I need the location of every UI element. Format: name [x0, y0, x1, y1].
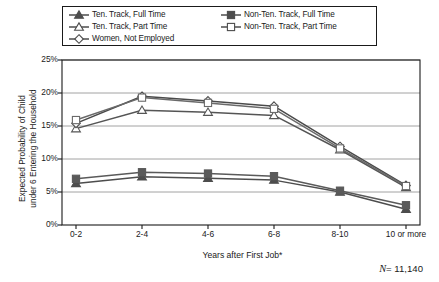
data-point-marker [270, 105, 277, 112]
plot-frame [62, 60, 420, 225]
legend-entry: Ten. Track, Full Time [68, 9, 220, 21]
series-2 [72, 106, 411, 191]
x-tick-label: 2-4 [136, 229, 148, 239]
filled-triangle-icon [68, 9, 90, 21]
x-tick-label: 10 or more [386, 229, 427, 239]
data-point-marker [204, 170, 211, 177]
chart-figure: Ten. Track, Full TimeNon-Ten. Track, Ful… [0, 0, 439, 282]
y-tick-label: 0% [22, 219, 58, 229]
y-tick-label: 10% [22, 153, 58, 163]
chart-legend: Ten. Track, Full TimeNon-Ten. Track, Ful… [62, 6, 377, 46]
data-point-marker [204, 99, 211, 106]
legend-entry: Ten. Track, Part Time [68, 21, 220, 33]
legend-label: Ten. Track, Part Time [92, 21, 167, 33]
y-tick-label: 5% [22, 186, 58, 196]
data-point-marker [72, 175, 79, 182]
legend-label: Ten. Track, Full Time [92, 9, 165, 21]
data-point-marker [402, 202, 409, 209]
data-point-marker [72, 116, 79, 123]
legend-entry-list: Ten. Track, Full TimeNon-Ten. Track, Ful… [68, 9, 373, 45]
series-1 [72, 173, 411, 213]
x-tick-label: 0-2 [70, 229, 82, 239]
series-line [76, 110, 406, 187]
open-triangle-icon [68, 21, 90, 33]
data-point-marker [336, 187, 343, 194]
data-point-marker [270, 173, 277, 180]
series-line [76, 172, 406, 205]
open-diamond-icon [68, 33, 90, 45]
x-tick-label: 6-8 [268, 229, 280, 239]
legend-label: Non-Ten. Track, Part Time [244, 21, 337, 33]
data-point-marker [138, 94, 145, 101]
open-square-icon [220, 21, 242, 33]
sample-size-note: N= 11,140 [379, 263, 423, 274]
x-axis-title: Years after First Job* [60, 250, 425, 260]
series-line [76, 177, 406, 209]
data-point-marker [402, 182, 409, 189]
series-line [76, 96, 406, 185]
series-4 [72, 169, 409, 209]
legend-label: Non-Ten. Track, Full Time [244, 9, 335, 21]
data-point-marker [336, 145, 343, 152]
y-tick-label: 15% [22, 120, 58, 130]
series-line [76, 98, 406, 186]
legend-entry: Non-Ten. Track, Full Time [220, 9, 372, 21]
legend-entry: Non-Ten. Track, Part Time [220, 21, 372, 33]
y-tick-label: 20% [22, 87, 58, 97]
y-tick-label: 25% [22, 54, 58, 64]
legend-label: Women, Not Employed [92, 33, 174, 45]
legend-entry: Women, Not Employed [68, 33, 220, 45]
sample-size-value: = 11,140 [386, 263, 423, 274]
data-point-marker [138, 169, 145, 176]
filled-square-icon [220, 9, 242, 21]
x-tick-label: 8-10 [332, 229, 349, 239]
x-tick-label: 4-6 [202, 229, 214, 239]
